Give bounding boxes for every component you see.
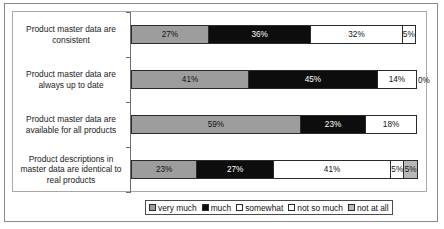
category-label: Product master data are available for al…: [15, 102, 127, 147]
bar-segment-very-much[interactable]: 23%: [131, 160, 197, 179]
legend-swatch-icon: [348, 204, 355, 211]
bar-segment-very-much[interactable]: 27%: [131, 25, 209, 44]
bar-segment-much[interactable]: 23%: [300, 115, 366, 134]
plot-area: Product master data are consistent 27% 3…: [12, 11, 427, 192]
stacked-bar: 41% 45% 14% 0%: [131, 70, 419, 89]
segment-value: 45%: [305, 75, 321, 84]
legend-item-much[interactable]: much: [202, 203, 231, 213]
segment-value: 27%: [162, 30, 178, 39]
legend-item-somewhat[interactable]: somewhat: [236, 203, 283, 213]
segment-value: 36%: [251, 30, 267, 39]
chart-row: Product master data are available for al…: [13, 102, 428, 147]
bar-segment-much[interactable]: 27%: [196, 160, 274, 179]
stacked-bar: 59% 23% 18%: [131, 115, 419, 134]
legend-item-not-at-all[interactable]: not at all: [348, 203, 389, 213]
category-label: Product master data are always up to dat…: [15, 57, 127, 102]
bar-segment-somewhat[interactable]: 18%: [365, 115, 417, 134]
segment-value: 23%: [325, 120, 341, 129]
legend-swatch-icon: [202, 204, 209, 211]
segment-value: 59%: [208, 120, 224, 129]
legend-item-very-much[interactable]: very much: [149, 203, 197, 213]
chart-legend: very much much somewhat not so much not …: [145, 200, 393, 215]
legend-label: very much: [158, 203, 197, 213]
category-label: Product master data are consistent: [15, 12, 127, 57]
segment-value: 5%: [391, 165, 403, 174]
chart-row: Product descriptions in master data are …: [13, 147, 428, 192]
legend-swatch-icon: [288, 204, 295, 211]
bar-segment-somewhat[interactable]: 14%: [377, 70, 417, 89]
legend-label: somewhat: [245, 203, 283, 213]
segment-value: 0%: [416, 75, 430, 84]
bar-segment-not-at-all[interactable]: 5%: [403, 160, 417, 179]
bar-segment-not-so-much[interactable]: 5%: [402, 25, 416, 44]
legend-label: much: [211, 203, 231, 213]
category-label: Product descriptions in master data are …: [15, 147, 127, 192]
legend-label: not so much: [297, 203, 343, 213]
segment-value: 18%: [383, 120, 399, 129]
segment-value: 27%: [227, 165, 243, 174]
bar-segment-much[interactable]: 45%: [248, 70, 378, 89]
chart-container: Product master data are consistent 27% 3…: [4, 3, 438, 222]
bar-segment-very-much[interactable]: 59%: [131, 115, 301, 134]
legend-swatch-icon: [149, 204, 156, 211]
bar-segment-somewhat[interactable]: 32%: [310, 25, 402, 44]
legend-item-not-so-much[interactable]: not so much: [288, 203, 343, 213]
bar-segment-somewhat[interactable]: 41%: [273, 160, 391, 179]
chart-row: Product master data are consistent 27% 3…: [13, 12, 428, 57]
stacked-bar: 23% 27% 41% 5% 5%: [131, 160, 419, 179]
axis-tick: [126, 192, 130, 193]
segment-value: 32%: [348, 30, 364, 39]
segment-value: 14%: [389, 75, 405, 84]
bar-segment-very-much[interactable]: 41%: [131, 70, 249, 89]
segment-value: 23%: [156, 165, 172, 174]
legend-label: not at all: [357, 203, 389, 213]
segment-value: 5%: [403, 30, 415, 39]
bar-segment-not-so-much[interactable]: 5%: [390, 160, 404, 179]
legend-swatch-icon: [236, 204, 243, 211]
segment-value: 41%: [324, 165, 340, 174]
bar-segment-much[interactable]: 36%: [208, 25, 312, 44]
segment-value: 5%: [405, 165, 417, 174]
segment-value: 41%: [182, 75, 198, 84]
chart-row: Product master data are always up to dat…: [13, 57, 428, 102]
stacked-bar: 27% 36% 32% 5%: [131, 25, 419, 44]
